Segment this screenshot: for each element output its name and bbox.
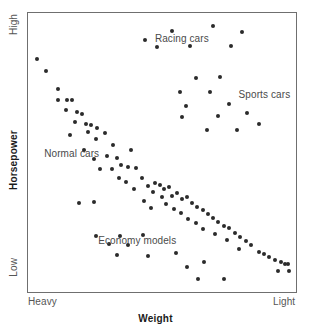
scatter-chart-figure: Racing cars Sports cars Normal cars Econ…	[0, 0, 311, 330]
data-point	[164, 202, 168, 206]
data-point	[129, 148, 133, 152]
data-point	[229, 44, 233, 48]
data-point	[249, 243, 253, 247]
data-point	[111, 143, 115, 147]
data-point	[180, 197, 184, 201]
data-point	[56, 98, 60, 102]
data-point	[211, 24, 215, 28]
data-point	[180, 115, 184, 119]
data-point	[126, 165, 130, 169]
data-point	[237, 247, 241, 251]
data-point	[213, 232, 217, 236]
data-point	[194, 221, 198, 225]
data-point	[201, 208, 205, 212]
data-point	[110, 167, 114, 171]
data-point	[68, 133, 72, 137]
data-point	[170, 194, 174, 198]
data-point	[185, 195, 189, 199]
data-point	[89, 123, 93, 127]
data-point	[103, 131, 107, 135]
data-point	[146, 254, 150, 258]
data-point	[124, 180, 128, 184]
data-point	[216, 114, 220, 118]
data-point	[184, 104, 188, 108]
data-point	[86, 130, 90, 134]
data-point	[257, 122, 261, 126]
data-point	[162, 187, 166, 191]
data-point	[158, 183, 162, 187]
data-point	[172, 207, 176, 211]
data-point	[273, 258, 277, 262]
data-point	[194, 76, 198, 80]
data-point	[70, 98, 74, 102]
data-point	[174, 251, 178, 255]
annotation-racing-cars: Racing cars	[155, 33, 209, 44]
data-point	[206, 212, 210, 216]
data-point	[84, 122, 88, 126]
data-point	[218, 75, 222, 79]
data-point	[65, 98, 69, 102]
data-point	[44, 69, 48, 73]
data-point	[286, 262, 290, 266]
data-point	[240, 30, 244, 34]
data-point	[190, 201, 194, 205]
data-point	[216, 220, 220, 224]
data-point	[117, 176, 121, 180]
data-point	[244, 239, 248, 243]
data-point	[186, 217, 190, 221]
y-axis-low-label: Low	[8, 258, 19, 277]
data-point	[227, 226, 231, 230]
data-point	[56, 87, 60, 91]
data-point	[155, 45, 159, 49]
data-point	[245, 111, 249, 115]
x-axis-title: Weight	[0, 313, 311, 324]
data-point	[227, 102, 231, 106]
data-point	[179, 211, 183, 215]
annotation-economy-models: Economy models	[98, 235, 176, 246]
data-point	[225, 238, 229, 242]
data-point	[205, 128, 209, 132]
data-point	[35, 57, 39, 61]
data-point	[196, 277, 200, 281]
data-point	[276, 269, 280, 273]
data-point	[201, 227, 205, 231]
data-point	[77, 201, 81, 205]
data-point	[175, 191, 179, 195]
data-point	[178, 90, 182, 94]
data-point	[95, 126, 99, 130]
data-point	[143, 38, 147, 42]
data-point	[151, 190, 155, 194]
data-point	[149, 206, 153, 210]
data-point	[142, 199, 146, 203]
data-point	[235, 128, 239, 132]
x-axis-light-label: Light	[273, 296, 295, 307]
annotation-normal-cars: Normal cars	[44, 148, 99, 159]
data-point	[146, 184, 150, 188]
data-point	[64, 108, 68, 112]
data-point	[202, 260, 206, 264]
data-point	[134, 166, 138, 170]
data-point	[267, 255, 271, 259]
data-point	[238, 235, 242, 239]
data-point	[153, 181, 157, 185]
data-point	[188, 44, 192, 48]
data-point	[195, 205, 199, 209]
data-point	[132, 187, 136, 191]
data-point	[167, 185, 171, 189]
data-point	[287, 269, 291, 273]
data-point	[140, 176, 144, 180]
data-point	[211, 216, 215, 220]
y-axis-high-label: High	[8, 14, 19, 35]
data-point	[75, 110, 79, 114]
data-point	[105, 154, 109, 158]
data-point	[94, 137, 98, 141]
data-point	[185, 265, 189, 269]
plot-area-frame: Racing cars Sports cars Normal cars Econ…	[27, 12, 297, 293]
data-point	[98, 167, 102, 171]
data-point	[80, 112, 84, 116]
y-axis-title: Horsepower	[8, 130, 19, 190]
data-point	[160, 195, 164, 199]
data-point	[92, 200, 96, 204]
data-point	[257, 250, 261, 254]
x-axis-heavy-label: Heavy	[28, 296, 57, 307]
